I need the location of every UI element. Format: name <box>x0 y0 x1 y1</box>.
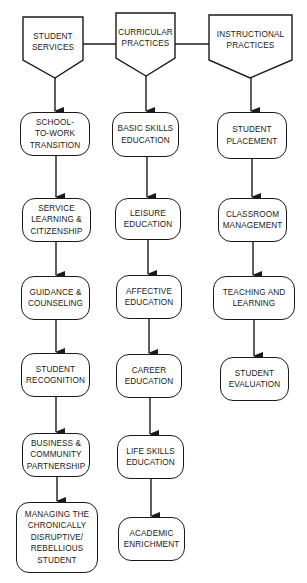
node-label: ACADEMIC ENRICHMENT <box>124 528 180 551</box>
node-service-learning-citizenship: SERVICE LEARNING & CITIZENSHIP <box>22 198 91 242</box>
header-label: CURRICULAR PRACTICES <box>118 27 173 50</box>
node-label: STUDENT EVALUATION <box>229 368 281 391</box>
node-label: CAREER EDUCATION <box>125 365 174 388</box>
node-label: SCHOOL- TO-WORK TRANSITION <box>30 117 81 152</box>
node-label: AFFECTIVE EDUCATION <box>125 286 174 309</box>
node-leisure-education: LEISURE EDUCATION <box>115 198 181 240</box>
node-business-community-partnership: BUSINESS & COMMUNITY PARTNERSHIP <box>22 433 90 477</box>
header-student-services: STUDENT SERVICES <box>23 24 83 60</box>
header-label: STUDENT SERVICES <box>32 31 74 54</box>
node-student-evaluation: STUDENT EVALUATION <box>220 357 289 401</box>
node-label: LEISURE EDUCATION <box>124 208 173 231</box>
node-basic-skills-education: BASIC SKILLS EDUCATION <box>112 112 179 157</box>
node-label: BASIC SKILLS EDUCATION <box>118 123 174 146</box>
node-label: BUSINESS & COMMUNITY PARTNERSHIP <box>27 438 86 473</box>
node-label: SERVICE LEARNING & CITIZENSHIP <box>30 203 82 238</box>
node-classroom-management: CLASSROOM MANAGEMENT <box>218 198 287 242</box>
node-label: MANAGING THE CHRONICALLY DISRUPTIVE/ REB… <box>25 509 89 567</box>
node-affective-education: AFFECTIVE EDUCATION <box>116 275 182 319</box>
node-managing-disruptive-student: MANAGING THE CHRONICALLY DISRUPTIVE/ REB… <box>16 502 98 573</box>
node-career-education: CAREER EDUCATION <box>116 354 182 398</box>
node-label: STUDENT PLACEMENT <box>227 124 278 147</box>
node-academic-enrichment: ACADEMIC ENRICHMENT <box>118 517 185 561</box>
node-life-skills-education: LIFE SKILLS EDUCATION <box>117 435 184 479</box>
node-guidance-counseling: GUIDANCE & COUNSELING <box>21 276 90 320</box>
node-label: CLASSROOM MANAGEMENT <box>223 209 283 232</box>
node-school-to-work-transition: SCHOOL- TO-WORK TRANSITION <box>20 112 90 156</box>
node-label: STUDENT RECOGNITION <box>26 364 85 387</box>
node-teaching-and-learning: TEACHING AND LEARNING <box>213 276 295 320</box>
node-label: GUIDANCE & COUNSELING <box>28 287 83 310</box>
node-label: LIFE SKILLS EDUCATION <box>126 446 175 469</box>
header-label: INSTRUCTIONAL PRACTICES <box>217 29 284 52</box>
header-curricular-practices: CURRICULAR PRACTICES <box>116 20 175 56</box>
node-student-placement: STUDENT PLACEMENT <box>217 112 287 159</box>
node-label: TEACHING AND LEARNING <box>223 287 286 310</box>
node-student-recognition: STUDENT RECOGNITION <box>21 353 90 397</box>
header-instructional-practices: INSTRUCTIONAL PRACTICES <box>209 22 292 58</box>
